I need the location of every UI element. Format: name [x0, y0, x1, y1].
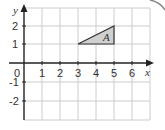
- x-tick-labels: 0 1 2 3 4 5 6: [14, 67, 135, 79]
- x-tick-label: 6: [129, 67, 135, 79]
- y-tick-label: -2: [9, 95, 19, 107]
- x-tick-label: 5: [111, 67, 117, 79]
- x-axis-label: x: [144, 66, 150, 78]
- x-tick-label: 4: [93, 67, 99, 79]
- y-tick-label: -1: [9, 76, 19, 88]
- coordinate-grid-chart: A y x 0 1 2 3 4 5 6 2 1 -1 -2: [0, 0, 165, 130]
- x-tick-label: 1: [39, 67, 45, 79]
- triangle-a-label: A: [102, 31, 110, 43]
- x-tick-label: 3: [75, 67, 81, 79]
- y-tick-label: 1: [12, 38, 18, 50]
- page-corner-curve: [150, 0, 165, 10]
- y-axis-label: y: [12, 4, 18, 16]
- grid-lines: [24, 8, 150, 120]
- x-tick-label: 2: [57, 67, 63, 79]
- y-tick-label: 2: [12, 20, 18, 32]
